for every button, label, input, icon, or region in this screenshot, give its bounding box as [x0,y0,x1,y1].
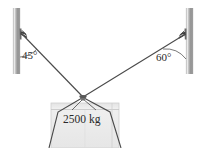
right-cable [83,34,186,97]
left-angle-label: 45° [22,50,37,61]
left-cable [22,34,84,98]
mechanics-diagram: 45° 60° 2500 kg [0,0,206,148]
crate-mass-label: 2500 kg [63,114,100,126]
diagram-canvas [0,0,206,148]
right-pole [186,8,193,74]
left-pole [13,8,20,74]
right-angle-label: 60° [156,52,171,63]
cable-knot [79,95,86,101]
